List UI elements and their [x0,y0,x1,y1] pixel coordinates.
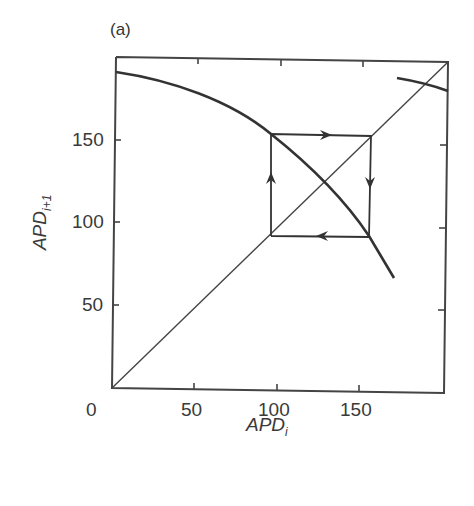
restitution-curve-main [116,72,394,278]
x-ticks [194,58,363,391]
y-tick-label-100: 100 [72,211,104,233]
x-tick-label-50: 50 [181,399,202,421]
x-tick-label-150: 150 [340,399,372,421]
cobweb-chart [0,0,474,506]
x-axis-label: APDi [246,414,288,439]
y-tick-label-50: 50 [82,294,103,316]
x-tick-label-0: 0 [86,399,97,421]
y-tick-label-150: 150 [72,129,104,151]
y-axis-label: APDi+1 [29,195,54,250]
panel-label: (a) [110,20,131,40]
restitution-curve-upper [397,78,448,91]
identity-line [112,62,448,388]
